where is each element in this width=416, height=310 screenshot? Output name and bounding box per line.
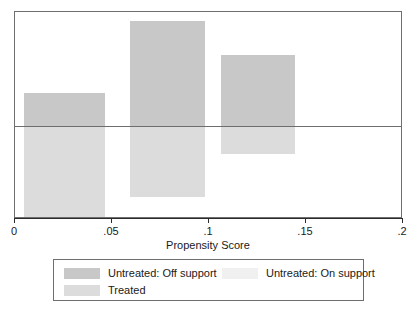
histogram-bar bbox=[24, 127, 105, 218]
legend-label-untreated-off-support: Untreated: Off support bbox=[108, 267, 217, 280]
histogram-bar bbox=[130, 21, 205, 126]
propensity-score-histogram: 0.05.1.15.2 Propensity Score Untreated: … bbox=[0, 0, 416, 310]
histogram-bar bbox=[221, 55, 296, 126]
histogram-bar bbox=[221, 127, 296, 154]
legend-entry-untreated-on-support: Untreated: On support bbox=[222, 267, 375, 280]
legend-swatch-icon-treated bbox=[64, 285, 100, 296]
x-axis-tick bbox=[14, 218, 15, 223]
x-axis-tick bbox=[208, 218, 209, 223]
plot-area bbox=[15, 12, 401, 217]
x-axis-tick-label: .15 bbox=[297, 225, 312, 238]
plot-frame bbox=[14, 11, 402, 218]
x-axis-tick bbox=[402, 218, 403, 223]
x-axis-tick bbox=[305, 218, 306, 223]
x-axis-tick bbox=[111, 218, 112, 223]
zero-baseline bbox=[15, 126, 401, 127]
legend-entry-treated: Treated bbox=[64, 284, 146, 297]
legend-swatch-icon-untreated-on-support bbox=[222, 268, 258, 279]
histogram-bar bbox=[130, 127, 205, 197]
x-axis-tick-label: .1 bbox=[203, 225, 212, 238]
legend-swatch-icon-untreated-off-support bbox=[64, 268, 100, 279]
legend: Untreated: Off support Untreated: On sup… bbox=[53, 259, 364, 301]
legend-label-treated: Treated bbox=[108, 284, 146, 297]
x-axis-tick-label: 0 bbox=[11, 225, 17, 238]
legend-entry-untreated-off-support: Untreated: Off support bbox=[64, 267, 217, 280]
x-axis-tick-label: .05 bbox=[103, 225, 118, 238]
x-axis-tick-label: .2 bbox=[397, 225, 406, 238]
legend-label-untreated-on-support: Untreated: On support bbox=[266, 267, 375, 280]
histogram-bar bbox=[24, 93, 105, 126]
x-axis-title: Propensity Score bbox=[0, 239, 416, 252]
